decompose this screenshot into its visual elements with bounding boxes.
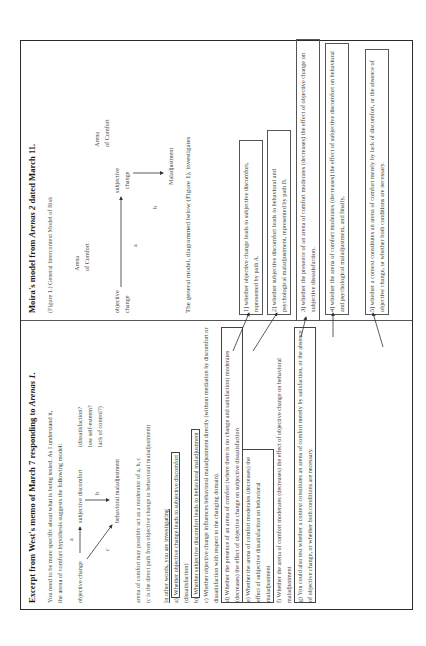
west-memo-column: Excerpt from West's memo of March 7 resp… <box>21 321 412 609</box>
heading-suffix: dated March 11. <box>27 144 37 206</box>
item-text: Whether the presence of an arena of comf… <box>223 351 240 602</box>
heading-text: Excerpt from West's memo of March 7 resp… <box>27 406 37 603</box>
heading-text: Moira's model from <box>27 238 37 314</box>
path-label-a: a <box>67 538 75 541</box>
objective-change-node: objective change <box>76 561 84 603</box>
boxed-text: Whether objective change leads to subjec… <box>171 452 180 598</box>
path-label-c: c <box>103 548 111 551</box>
arena-of-comfort-1-line1: Arena <box>73 256 81 271</box>
path-label-b: b <box>93 492 101 495</box>
west-memo-heading: Excerpt from West's memo of March 7 resp… <box>27 327 37 603</box>
item-prefix: b) <box>192 598 199 603</box>
memo-item-e: e) Whether the arena of comfort moderate… <box>243 449 274 603</box>
intro-line-2: the arena of comfort hypothesis suggests… <box>55 327 65 603</box>
investigating-line: In other words, you are investigating <box>161 327 171 603</box>
heading-italic: Arenas 2 <box>27 206 37 238</box>
item-rest: (dissatisfaction) <box>182 563 189 603</box>
rotated-document-page: Excerpt from West's memo of March 7 resp… <box>0 0 426 646</box>
arena-of-comfort-1-line2: of Comfort <box>83 243 91 271</box>
figure-caption: (Figure 1.) General Intercontext Model o… <box>45 45 55 313</box>
question-box-5: 5) whether a context constitutes an aren… <box>365 49 389 315</box>
question-box-2: 2) whether subjective discomfort leads t… <box>267 130 291 315</box>
question-box-1: 1) whether objective change leads to sub… <box>239 140 263 315</box>
moira-model-column: Moira's model from Arenas 2 dated March … <box>21 39 412 321</box>
subjective-change-node-line2: change <box>123 171 131 189</box>
boxed-text: Whether subjective discomfort leads to b… <box>191 429 200 598</box>
box-text: 4) whether the arena of comfort moderate… <box>328 51 345 312</box>
heading-italic: Arenas 1 <box>27 374 37 406</box>
item-prefix: a) <box>172 598 179 603</box>
path-label-b: b <box>151 206 159 209</box>
note-dissatisfaction: (dissatisfaction? <box>76 407 84 447</box>
item-text: Whether objective change influences beha… <box>202 328 219 604</box>
maladjustment-node: Maladjustment <box>167 148 175 185</box>
box-text: 1) whether objective change leads to sub… <box>242 162 259 312</box>
box-text: 5) whether a context constitutes an aren… <box>368 60 385 312</box>
subjective-discomfort-node: subjective discomfort <box>76 470 84 523</box>
moira-model-heading: Moira's model from Arenas 2 dated March … <box>27 45 37 313</box>
path-label-a: a <box>131 244 139 247</box>
box-text: 2) whether subjective discomfort leads t… <box>270 169 287 312</box>
moira-model-diagram: Arena of Comfort objective change subjec… <box>55 45 183 313</box>
moderator-line: arena of comfort may possibly act as a m… <box>133 327 143 603</box>
arena-of-comfort-2-line1: Arena <box>93 132 101 147</box>
objective-change-node-line2: change <box>123 295 131 313</box>
memo-item-d: d) Whether the presence of an arena of c… <box>221 327 243 603</box>
heading-suffix: . <box>27 372 37 374</box>
note-control: lack of control?) <box>96 406 104 447</box>
item-prefix: d) <box>223 597 230 602</box>
memo-item-g: g) You could also test whether a context… <box>294 327 316 603</box>
box-text: 3) whether the presence of an arena of c… <box>299 53 316 312</box>
item-text: Whether the arena of comfort moderates (… <box>244 457 271 602</box>
item-prefix: g) <box>296 597 303 602</box>
item-prefix: e) <box>244 597 251 602</box>
behavioral-maladjustment-node: behavioral maladjustment <box>113 459 121 523</box>
item-prefix: f) <box>275 599 282 603</box>
note-self-esteem: low self-esteem? <box>86 405 94 447</box>
subjective-change-node-line1: subjective <box>113 168 121 193</box>
memo-item-c: c) Whether objective change influences b… <box>201 327 221 603</box>
west-model-diagram: objective change subjective discomfort b… <box>65 327 127 603</box>
memo-item-f: f) Whether the arena of comfort moderate… <box>274 327 294 603</box>
general-model-text: The general model, diagrammed below (Fig… <box>183 45 193 313</box>
arena-of-comfort-2-line2: of Comfort <box>103 119 111 147</box>
question-box-3: 3) whether the presence of an arena of c… <box>296 39 320 321</box>
objective-change-node-line1: objective <box>113 290 121 313</box>
document-frame: Excerpt from West's memo of March 7 resp… <box>20 40 413 610</box>
direct-path-line: (c is the direct path from objective cha… <box>143 327 153 603</box>
intro-line-1: You need to be more specific about what … <box>45 327 55 603</box>
memo-item-a: a)Whether objective change leads to subj… <box>171 327 191 603</box>
item-prefix: c) <box>202 598 209 603</box>
memo-item-b: b)Whether subjective discomfort leads to… <box>191 327 201 603</box>
item-text: You could also test whether a context co… <box>296 330 313 602</box>
item-text: Whether the arena of comfort moderates (… <box>275 358 292 603</box>
question-box-4: 4) whether the arena of comfort moderate… <box>325 43 349 315</box>
